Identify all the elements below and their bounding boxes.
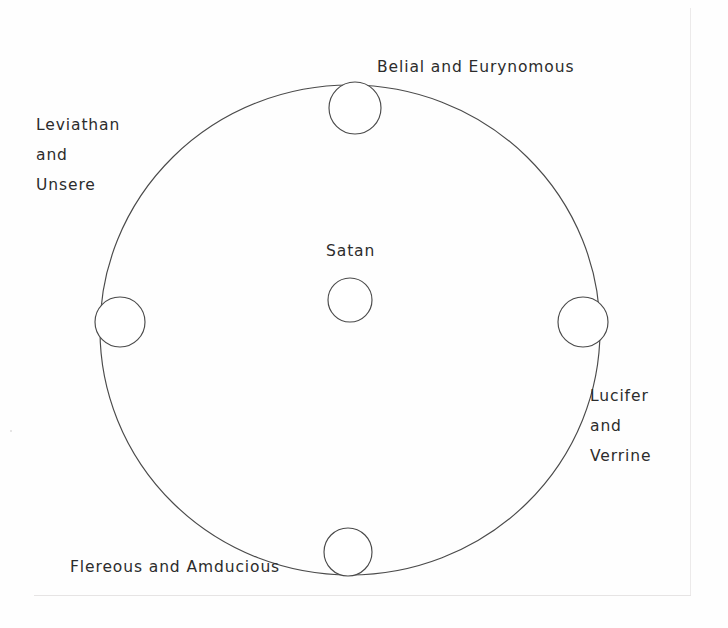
circle-diagram — [0, 0, 728, 628]
node-label-east-line-2: and — [590, 411, 651, 441]
scanned-page: Belial and Eurynomous Leviathan and Unse… — [0, 0, 728, 628]
node-label-west-line-3: Unsere — [36, 170, 120, 200]
node-label-south-line-1: Flereous and Amducious — [70, 552, 280, 582]
node-label-west: Leviathan and Unsere — [36, 110, 120, 201]
node-label-east-line-1: Lucifer — [590, 381, 651, 411]
node-circle-east[interactable] — [558, 297, 608, 347]
node-label-north-line-1: Belial and Eurynomous — [377, 52, 574, 82]
node-label-west-line-2: and — [36, 140, 120, 170]
node-label-west-line-1: Leviathan — [36, 110, 120, 140]
node-circle-north[interactable] — [329, 82, 381, 134]
node-circle-south[interactable] — [324, 528, 372, 576]
node-label-east-line-3: Verrine — [590, 441, 651, 471]
node-label-south: Flereous and Amducious — [70, 552, 280, 582]
node-label-east: Lucifer and Verrine — [590, 381, 651, 472]
outer-ring-circle — [100, 85, 600, 575]
node-circle-west[interactable] — [95, 297, 145, 347]
node-label-north: Belial and Eurynomous — [377, 52, 574, 82]
node-label-center-satan: Satan — [326, 236, 375, 266]
node-circle-center-satan[interactable] — [328, 278, 372, 322]
node-label-center-satan-text: Satan — [326, 236, 375, 266]
